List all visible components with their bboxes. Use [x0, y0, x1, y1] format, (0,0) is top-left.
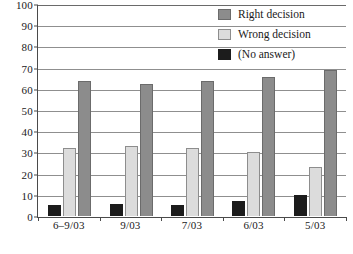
- legend-swatch-icon: [218, 29, 231, 40]
- bar-group: [110, 5, 153, 216]
- chart-legend: Right decisionWrong decision(No answer): [218, 8, 311, 61]
- bar: [171, 205, 184, 216]
- legend-swatch-icon: [218, 49, 231, 60]
- y-axis-tick-mark: [34, 26, 38, 27]
- legend-item: Right decision: [218, 8, 311, 21]
- bar: [48, 205, 61, 216]
- x-axis-tick-label: 7/03: [161, 220, 223, 231]
- legend-item: (No answer): [218, 48, 311, 61]
- x-axis-tick-mark: [346, 217, 347, 221]
- legend-swatch-icon: [218, 9, 231, 20]
- legend-label: Right decision: [238, 9, 305, 21]
- bar: [110, 204, 123, 216]
- bar-group: [48, 5, 91, 216]
- y-axis-tick-mark: [34, 195, 38, 196]
- bar: [140, 84, 153, 216]
- y-axis-tick-mark: [34, 153, 38, 154]
- legend-item: Wrong decision: [218, 28, 311, 41]
- y-axis-tick-mark: [34, 174, 38, 175]
- legend-label: Wrong decision: [238, 29, 311, 41]
- y-axis-tick-mark: [34, 132, 38, 133]
- y-axis-tick-mark: [34, 89, 38, 90]
- bar-chart: 1009080706050403020100 6–9/039/037/036/0…: [0, 0, 353, 254]
- x-axis-tick-label: 9/03: [100, 220, 162, 231]
- x-axis-tick-label: 5/03: [284, 220, 346, 231]
- bar: [232, 201, 245, 216]
- bar: [186, 148, 199, 216]
- x-axis-tick-label: 6–9/03: [38, 220, 100, 231]
- legend-label: (No answer): [238, 49, 295, 61]
- x-axis-labels: 6–9/039/037/036/035/03: [38, 220, 346, 231]
- x-axis-tick-label: 6/03: [223, 220, 285, 231]
- y-axis-tick-mark: [34, 111, 38, 112]
- bar: [262, 77, 275, 217]
- bar: [201, 81, 214, 216]
- bar-group: [171, 5, 214, 216]
- bar: [63, 148, 76, 216]
- bar: [294, 195, 307, 216]
- bar: [125, 146, 138, 216]
- bar: [309, 167, 322, 216]
- y-axis-tick-mark: [34, 5, 38, 6]
- y-axis-tick-mark: [34, 68, 38, 69]
- bar: [78, 81, 91, 216]
- y-axis-tick-mark: [34, 47, 38, 48]
- bar: [247, 152, 260, 216]
- bar: [324, 70, 337, 216]
